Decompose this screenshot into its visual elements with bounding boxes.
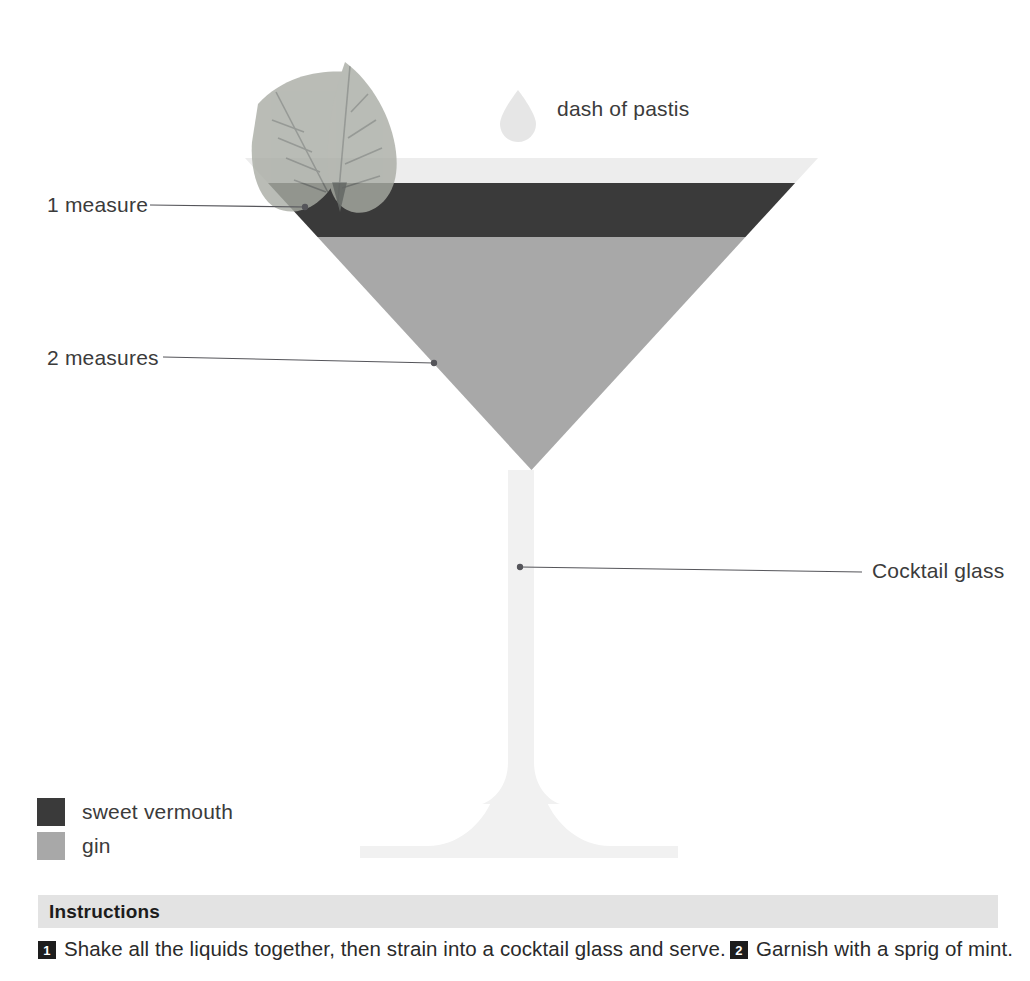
legend-item-gin: gin [37, 829, 337, 863]
instructions-header-band: Instructions [38, 895, 998, 928]
annotation-measure-vermouth: 1 measure [47, 193, 148, 217]
legend-item-sweet-vermouth: sweet vermouth [37, 795, 337, 829]
step-text-1: Shake all the liquids together, then str… [64, 937, 726, 961]
leader-dot-glass [517, 564, 522, 569]
annotation-pastis: dash of pastis [557, 97, 689, 121]
glass-base [360, 800, 678, 858]
cocktail-recipe-diagram: 1 measure 2 measures dash of pastis Cock… [0, 0, 1030, 981]
legend-label-gin: gin [82, 834, 111, 858]
legend-swatch-gin [37, 832, 65, 860]
liquid-gin [240, 237, 825, 477]
step-text-2: Garnish with a sprig of mint. [756, 937, 1013, 961]
annotation-measure-gin: 2 measures [47, 346, 159, 370]
glass-stem [482, 470, 560, 804]
leader-line-gin [163, 357, 434, 363]
step-badge-2: 2 [730, 941, 748, 959]
annotation-glassware: Cocktail glass [872, 559, 1004, 583]
leader-dot-vermouth [302, 204, 307, 209]
legend: sweet vermouth gin [37, 795, 337, 863]
step-badge-1: 1 [38, 941, 56, 959]
legend-swatch-sweet-vermouth [37, 798, 65, 826]
leader-dot-gin [431, 360, 436, 365]
legend-label-sweet-vermouth: sweet vermouth [82, 800, 233, 824]
leader-line-glass [520, 567, 862, 572]
instructions-steps: 1 Shake all the liquids together, then s… [38, 937, 1013, 961]
mint-leaf-icon [252, 62, 397, 213]
water-drop-icon [500, 90, 536, 142]
liquid-layers [240, 183, 825, 477]
instructions-title: Instructions [49, 901, 160, 923]
